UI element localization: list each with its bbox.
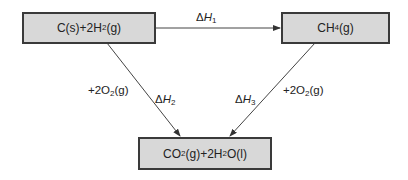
reactants-text-a: C(s)+2H — [57, 21, 102, 35]
label-delta-h2: ΔH2 — [155, 93, 175, 105]
reagent-state: (g) — [115, 84, 129, 96]
node-products: CO2(g)+2H2O(l) — [138, 137, 272, 170]
products-text-c: O(l) — [227, 147, 247, 161]
methane-text-b: (g) — [339, 21, 354, 35]
delta-sub: 1 — [212, 16, 216, 25]
delta-symbol: Δ — [235, 93, 243, 105]
enthalpy-var: H — [204, 11, 212, 23]
products-text-a: CO — [163, 147, 181, 161]
methane-text-a: CH — [317, 21, 334, 35]
delta-symbol: Δ — [155, 93, 163, 105]
enthalpy-var: H — [243, 93, 251, 105]
delta-symbol: Δ — [196, 11, 204, 23]
label-delta-h3: ΔH3 — [235, 93, 255, 105]
label-reagent-right: +2O2(g) — [283, 84, 324, 96]
enthalpy-var: H — [163, 93, 171, 105]
reactants-text-b: (g) — [106, 21, 121, 35]
reagent-state: (g) — [310, 84, 324, 96]
products-text-b: (g)+2H — [185, 147, 222, 161]
delta-sub: 2 — [171, 98, 175, 107]
reagent-text: +2O — [88, 84, 110, 96]
delta-sub: 3 — [251, 98, 255, 107]
node-reactants: C(s)+2H2(g) — [22, 12, 156, 44]
label-delta-h1: ΔH1 — [196, 11, 216, 23]
node-methane: CH4(g) — [281, 12, 390, 44]
label-reagent-left: +2O2(g) — [88, 84, 129, 96]
reagent-text: +2O — [283, 84, 305, 96]
